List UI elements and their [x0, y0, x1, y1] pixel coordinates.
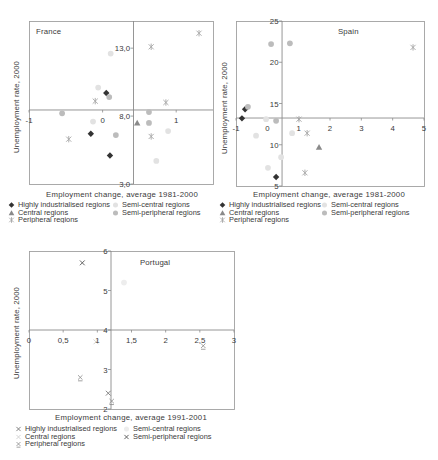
- data-point: [305, 130, 310, 136]
- series-semi-central-regions: [121, 280, 127, 286]
- x-tick-label: 2,5: [194, 336, 205, 345]
- circle-icon: [123, 425, 130, 432]
- data-point: [59, 110, 65, 116]
- y-tick-label: 20: [270, 58, 279, 67]
- x-axis-label: Employment change, average 1991-2001: [55, 413, 207, 422]
- data-point: [146, 120, 152, 126]
- cross-bar-icon: [15, 440, 22, 447]
- x-tick-label: 3: [359, 124, 363, 133]
- legend-label: Semi-peripheral regions: [331, 209, 409, 217]
- y-axis-label: Unemployment rate, 2000: [12, 61, 21, 153]
- legend-label: Semi-peripheral regions: [133, 433, 211, 441]
- x-tick-label: 0: [100, 116, 104, 125]
- data-point: [273, 118, 279, 124]
- data-point: [410, 44, 415, 50]
- y-tick-label: 4: [103, 326, 107, 335]
- data-point: [163, 99, 168, 105]
- circle-icon: [112, 209, 119, 216]
- series-peripheral-regions: [78, 344, 205, 405]
- y-tick-label: 5: [103, 286, 107, 295]
- data-point: [287, 40, 293, 46]
- legend-item-semi-peripheral: Semi-peripheral regions: [321, 209, 409, 217]
- circle-icon: [112, 201, 119, 208]
- y-tick-label: 6: [103, 247, 107, 256]
- x-tick-label: 0,5: [58, 336, 69, 345]
- series-semi-peripheral-regions: [59, 94, 152, 138]
- x-axis-label: Employment change, average 1981-2000: [253, 190, 405, 199]
- data-point: [106, 391, 111, 396]
- legend: Highly industrialised regions Semi-centr…: [8, 201, 200, 223]
- x-tick-label: 1: [296, 124, 300, 133]
- x-tick-label: 1,5: [126, 336, 137, 345]
- series-central-regions: [316, 144, 322, 150]
- data-point: [66, 136, 71, 142]
- x-tick-label: 5: [422, 124, 426, 133]
- data-point: [265, 165, 271, 171]
- y-tick-label: 2: [103, 405, 107, 414]
- chart-title: Spain: [338, 27, 359, 36]
- diamond-icon: [219, 201, 226, 208]
- data-point: [302, 170, 307, 176]
- x-tick-label: 4: [390, 124, 394, 133]
- data-point: [80, 260, 85, 265]
- data-point: [196, 30, 201, 36]
- data-point: [113, 132, 119, 138]
- x-axis-label: Employment change, average 1981-2000: [46, 190, 198, 199]
- chart-portugal: Portugal Unemployment rate, 2000 Employm…: [0, 235, 245, 460]
- y-tick-label: 8,0: [119, 112, 130, 121]
- data-point: [153, 158, 159, 164]
- series-highly-industrialised-regions: [106, 391, 111, 396]
- x-tick-label: 3: [232, 336, 236, 345]
- data-point: [106, 94, 112, 100]
- legend-item-peripheral: Peripheral regions: [8, 216, 112, 223]
- y-tick-label: 25: [270, 17, 279, 26]
- series-semi-peripheral-regions: [80, 260, 85, 265]
- x-tick-label: 1: [95, 336, 99, 345]
- x-tick-label: -1: [233, 124, 240, 133]
- x-tick-label: 0: [27, 336, 31, 345]
- data-point: [263, 116, 269, 122]
- data-point: [78, 375, 82, 381]
- data-point: [289, 130, 295, 136]
- data-point: [95, 85, 101, 91]
- data-point: [121, 280, 127, 286]
- data-point: [149, 133, 154, 139]
- data-point: [253, 133, 259, 139]
- x-tick-label: 0: [265, 124, 269, 133]
- triangle-icon: [219, 209, 226, 216]
- cross-icon: [15, 433, 22, 440]
- x-tick-label: 2: [163, 336, 167, 345]
- circle-icon: [321, 201, 328, 208]
- diamond-icon: [8, 201, 15, 208]
- data-point: [273, 174, 279, 180]
- series-semi-peripheral-regions: [245, 40, 293, 123]
- legend-label: Peripheral regions: [229, 216, 289, 224]
- x-tick-label: 1: [174, 116, 178, 125]
- data-point: [296, 116, 301, 122]
- chart-france: France Unemployment rate, 2000 Employmen…: [0, 0, 218, 223]
- x-tick-label: -1: [26, 116, 33, 125]
- legend-label: Peripheral regions: [18, 216, 78, 223]
- y-tick-label: 15: [270, 99, 279, 108]
- data-point: [93, 98, 98, 104]
- legend: Highly industrialised regions Semi-centr…: [15, 425, 211, 448]
- legend: Highly industrialised regions Semi-centr…: [219, 201, 409, 224]
- legend-item-peripheral: Peripheral regions: [15, 440, 123, 448]
- data-point: [316, 144, 322, 150]
- series-peripheral-regions: [296, 44, 415, 176]
- data-point: [90, 119, 96, 125]
- y-tick-label: 10: [270, 140, 279, 149]
- series-semi-central-regions: [90, 51, 171, 164]
- data-point: [268, 41, 274, 47]
- data-point: [146, 109, 152, 115]
- data-point: [149, 44, 154, 50]
- asterisk-icon: [8, 216, 15, 223]
- y-tick-label: 3: [103, 365, 107, 374]
- data-point: [88, 131, 94, 137]
- data-point: [108, 51, 114, 57]
- data-point: [109, 399, 113, 405]
- legend-item-semi-peripheral: Semi-peripheral regions: [123, 433, 211, 441]
- data-point: [107, 152, 113, 158]
- chart-title: Portugal: [140, 258, 170, 267]
- y-tick-label: 5: [274, 182, 278, 191]
